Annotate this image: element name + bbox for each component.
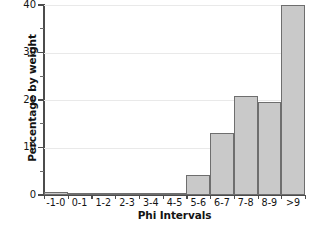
x-axis-tick-label: 5-6 (186, 197, 210, 208)
x-axis-tick-label: 6-7 (210, 197, 234, 208)
y-axis-tick-label: 40 (10, 0, 36, 10)
bar (186, 175, 210, 195)
y-axis-tick-label: 10 (10, 141, 36, 152)
x-axis-tick-label: 4-5 (163, 197, 187, 208)
gridline (44, 5, 305, 6)
x-axis-tick-label: 7-8 (234, 197, 258, 208)
y-axis-tick-label: 0 (10, 189, 36, 200)
x-axis-tick-label: 2-3 (115, 197, 139, 208)
bar-chart: Percentage by weight 010203040 -1-00-11-… (0, 0, 309, 228)
gridline (44, 53, 305, 54)
x-axis-title: Phi Intervals (44, 209, 305, 221)
bar (281, 5, 305, 195)
x-axis-tick-label: 3-4 (139, 197, 163, 208)
x-axis-tick-label: -1-0 (44, 197, 68, 208)
bar (258, 102, 282, 195)
gridline (44, 100, 305, 101)
bar (234, 96, 258, 195)
x-axis-tick (305, 195, 306, 199)
x-axis-line (43, 195, 305, 197)
x-axis-tick-label: >9 (281, 197, 305, 208)
x-axis-tick-label: 8-9 (258, 197, 282, 208)
y-axis-tick-label: 30 (10, 46, 36, 57)
x-axis-tick-label: 0-1 (68, 197, 92, 208)
bar (210, 133, 234, 195)
y-axis-tick-label: 20 (10, 94, 36, 105)
plot-area (44, 5, 305, 195)
x-axis-tick-label: 1-2 (91, 197, 115, 208)
